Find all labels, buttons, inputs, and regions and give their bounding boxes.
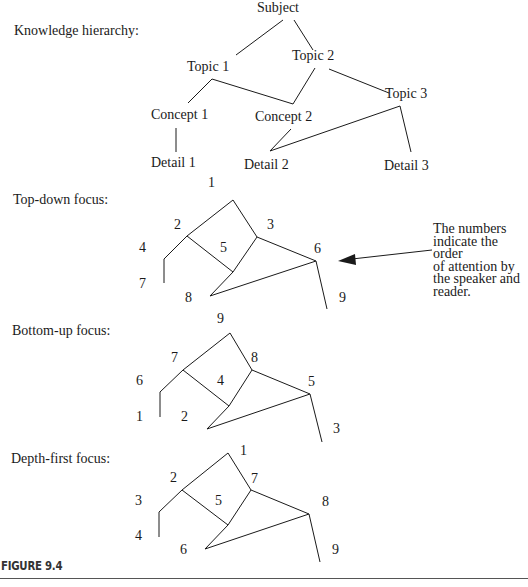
depth-first-concept2: 5 [215,493,222,509]
bottom-up-concept2: 4 [217,373,224,389]
bottom-up-detail3: 3 [333,421,340,437]
depth-first-subject: 1 [240,443,247,459]
bottom-up-detail1: 1 [136,409,143,425]
depth-first-concept1: 3 [135,493,142,509]
depth-first-detail3: 9 [332,542,339,558]
hierarchy-title: Knowledge hierarchy: [14,23,139,39]
depth-first-detail2: 6 [180,542,187,558]
bottom-up-detail2: 2 [181,409,188,425]
top-down-detail3: 9 [339,290,346,306]
annotation-note: The numbers indicate the order of attent… [433,223,528,298]
node-topic2: Topic 2 [292,48,334,64]
caption-rule [0,578,528,579]
bottom-up-topic2: 8 [251,350,258,366]
bottom-up-title: Bottom-up focus: [12,323,110,339]
node-topic3: Topic 3 [385,86,427,102]
depth-first-title: Depth-first focus: [11,451,110,467]
node-concept1: Concept 1 [151,107,208,123]
depth-first-topic1: 2 [170,470,177,486]
arrowhead-icon [338,254,356,265]
depth-first-topic2: 7 [251,471,258,487]
node-concept2: Concept 2 [255,109,312,125]
arrow [338,250,432,265]
figure-caption: FIGURE 9.4 [1,559,62,573]
depth-first-detail1: 4 [135,528,142,544]
bottom-up-lines [160,333,322,442]
top-down-subject: 1 [208,175,215,191]
top-down-topic3: 6 [314,241,321,257]
node-topic1: Topic 1 [187,59,229,75]
figure: Knowledge hierarchy: Subject Topic 1 Top… [0,0,528,587]
depth-first-topic3: 8 [322,494,329,510]
bottom-up-topic3: 5 [308,374,315,390]
node-detail1: Detail 1 [151,155,196,171]
top-down-title: Top-down focus: [13,192,108,208]
top-down-detail1: 7 [139,276,146,292]
bottom-up-topic1: 7 [171,350,178,366]
node-subject: Subject [257,0,299,16]
bottom-up-concept1: 6 [136,373,143,389]
top-down-detail2: 8 [185,290,192,306]
top-down-concept2: 5 [220,240,227,256]
top-down-topic1: 2 [174,217,181,233]
bottom-up-subject: 9 [217,311,224,327]
top-down-topic2: 3 [267,217,274,233]
hierarchy-lines [176,20,411,152]
node-detail3: Detail 3 [384,158,429,174]
top-down-concept1: 4 [139,240,146,256]
node-detail2: Detail 2 [244,157,289,173]
